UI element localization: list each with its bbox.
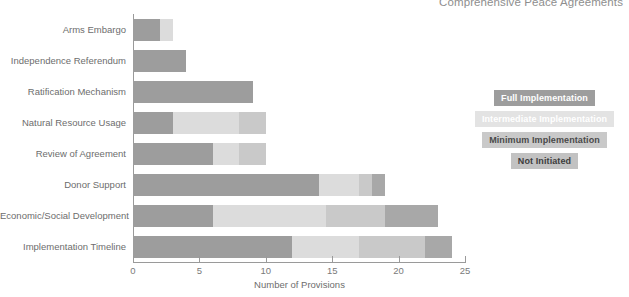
bar-row — [133, 236, 465, 258]
bar-segment — [292, 236, 358, 258]
category-label: Donor Support — [0, 179, 126, 190]
bar-segment — [239, 112, 266, 134]
bar-segment — [372, 174, 385, 196]
bar-segment — [133, 236, 292, 258]
bar-row — [133, 143, 465, 165]
chart-title: Comprehensive Peace Agreements — [439, 0, 623, 8]
bar-row — [133, 174, 465, 196]
bar-row — [133, 81, 465, 103]
bar-segment — [133, 174, 319, 196]
x-tick-mark — [199, 256, 200, 263]
x-tick-label: 5 — [197, 265, 202, 276]
x-tick-mark — [399, 256, 400, 263]
x-tick-label: 15 — [327, 265, 338, 276]
bar-segment — [133, 205, 213, 227]
x-tick-mark — [133, 256, 134, 263]
stacked-bar — [133, 236, 452, 258]
category-label: Implementation Timeline — [0, 241, 126, 252]
legend-item: Intermediate Implementation — [475, 111, 614, 127]
legend-item: Minimum Implementation — [482, 132, 607, 148]
category-label: Arms Embargo — [0, 24, 126, 35]
bar-row — [133, 112, 465, 134]
x-axis-line — [133, 262, 466, 263]
bar-segment — [359, 236, 425, 258]
bar-segment — [213, 205, 326, 227]
bar-segment — [173, 112, 239, 134]
category-label: Ratification Mechanism — [0, 86, 126, 97]
x-tick-label: 10 — [261, 265, 272, 276]
bar-row — [133, 50, 465, 72]
bar-segment — [326, 205, 386, 227]
bar-segment — [319, 174, 359, 196]
x-tick-label: 20 — [393, 265, 404, 276]
category-label: Natural Resource Usage — [0, 117, 126, 128]
x-tick-mark — [266, 256, 267, 263]
bar-segment — [133, 19, 160, 41]
stacked-bar — [133, 81, 253, 103]
stacked-bar — [133, 205, 438, 227]
bar-segment — [385, 205, 438, 227]
bar-row — [133, 19, 465, 41]
stacked-bar — [133, 174, 385, 196]
bar-segment — [425, 236, 452, 258]
x-tick-label: 0 — [130, 265, 135, 276]
category-label: Independence Referendum — [0, 55, 126, 66]
x-tick-mark — [465, 256, 466, 263]
x-tick-label: 25 — [460, 265, 471, 276]
bar-row — [133, 205, 465, 227]
bar-segment — [133, 143, 213, 165]
bar-segment — [133, 112, 173, 134]
bar-segment — [160, 19, 173, 41]
bar-segment — [239, 143, 266, 165]
x-axis-title: Number of Provisions — [133, 279, 466, 290]
plot-area — [133, 14, 465, 262]
bar-segment — [359, 174, 372, 196]
x-tick-mark — [332, 256, 333, 263]
bar-segment — [213, 143, 240, 165]
bar-segment — [133, 50, 186, 72]
category-label: Economic/Social Development — [0, 210, 126, 221]
stacked-bar — [133, 143, 266, 165]
stacked-bar — [133, 19, 173, 41]
stacked-bar — [133, 112, 266, 134]
chart-legend: Full ImplementationIntermediate Implemen… — [460, 90, 629, 169]
bar-segment — [133, 81, 253, 103]
stacked-bar — [133, 50, 186, 72]
legend-item: Not Initiated — [511, 153, 578, 169]
category-label: Review of Agreement — [0, 148, 126, 159]
chart-container: Comprehensive Peace Agreements Arms Emba… — [0, 0, 629, 297]
legend-item: Full Implementation — [494, 90, 595, 106]
